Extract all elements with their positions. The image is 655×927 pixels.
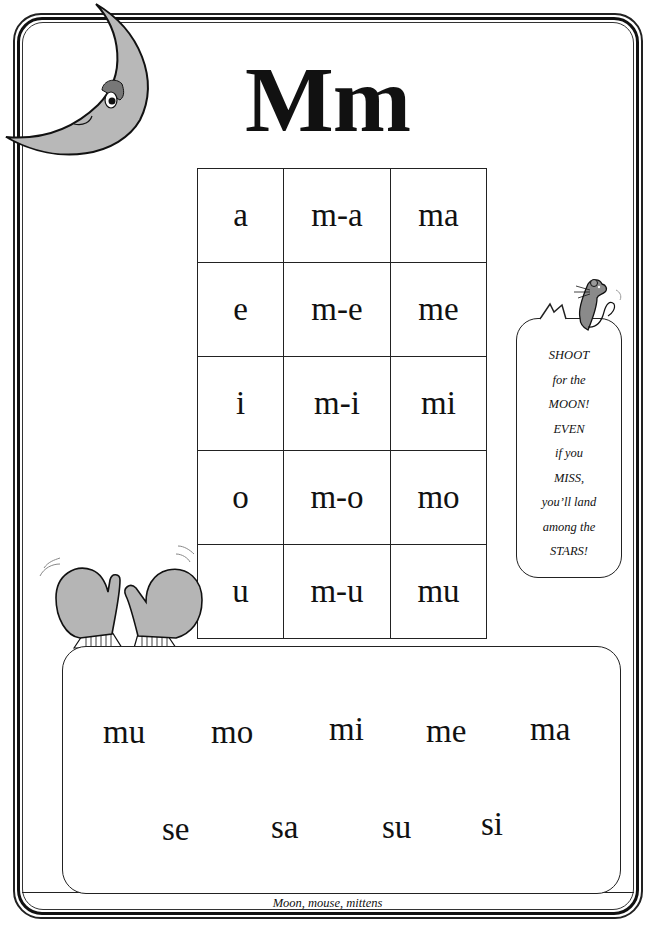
syllable-cell: mi xyxy=(391,357,487,451)
quote-line: you’ll land xyxy=(516,490,622,515)
practice-words-box xyxy=(62,646,621,894)
practice-word: mo xyxy=(211,716,253,749)
vowel-cell: i xyxy=(198,357,284,451)
syllable-cell: ma xyxy=(391,169,487,263)
blend-cell: m-e xyxy=(284,263,391,357)
blend-cell: m-a xyxy=(284,169,391,263)
vowel-cell: a xyxy=(198,169,284,263)
practice-word: se xyxy=(162,813,190,846)
mittens-icon xyxy=(30,540,205,652)
syllable-cell: mo xyxy=(391,451,487,545)
practice-word: me xyxy=(426,715,466,748)
practice-word: mi xyxy=(329,713,364,746)
quote-line: among the xyxy=(516,515,622,540)
mouse-icon xyxy=(562,272,628,334)
quote-line: MISS, xyxy=(516,466,622,491)
motivational-quote: SHOOT for the MOON! EVEN if you MISS, yo… xyxy=(516,343,622,564)
syllable-table: a m-a ma e m-e me i m-i mi o m-o mo u m-… xyxy=(197,168,487,639)
quote-line: SHOOT xyxy=(516,343,622,368)
blend-cell: m-u xyxy=(284,545,391,639)
practice-word: ma xyxy=(530,713,570,746)
practice-word: mu xyxy=(103,716,145,749)
page-title: Mm xyxy=(0,52,655,146)
practice-word: si xyxy=(481,808,503,841)
table-row: o m-o mo xyxy=(198,451,487,545)
syllable-cell: me xyxy=(391,263,487,357)
page-caption: Moon, mouse, mittens xyxy=(0,896,655,911)
table-row: u m-u mu xyxy=(198,545,487,639)
practice-word: sa xyxy=(271,811,299,844)
quote-line: for the xyxy=(516,368,622,393)
blend-cell: m-i xyxy=(284,357,391,451)
vowel-cell: e xyxy=(198,263,284,357)
vowel-cell: u xyxy=(198,545,284,639)
vowel-cell: o xyxy=(198,451,284,545)
blend-cell: m-o xyxy=(284,451,391,545)
table-row: e m-e me xyxy=(198,263,487,357)
syllable-cell: mu xyxy=(391,545,487,639)
quote-line: MOON! xyxy=(516,392,622,417)
quote-line: STARS! xyxy=(516,539,622,564)
table-row: i m-i mi xyxy=(198,357,487,451)
table-row: a m-a ma xyxy=(198,169,487,263)
practice-word: su xyxy=(382,811,411,844)
quote-line: if you xyxy=(516,441,622,466)
quote-line: EVEN xyxy=(516,417,622,442)
